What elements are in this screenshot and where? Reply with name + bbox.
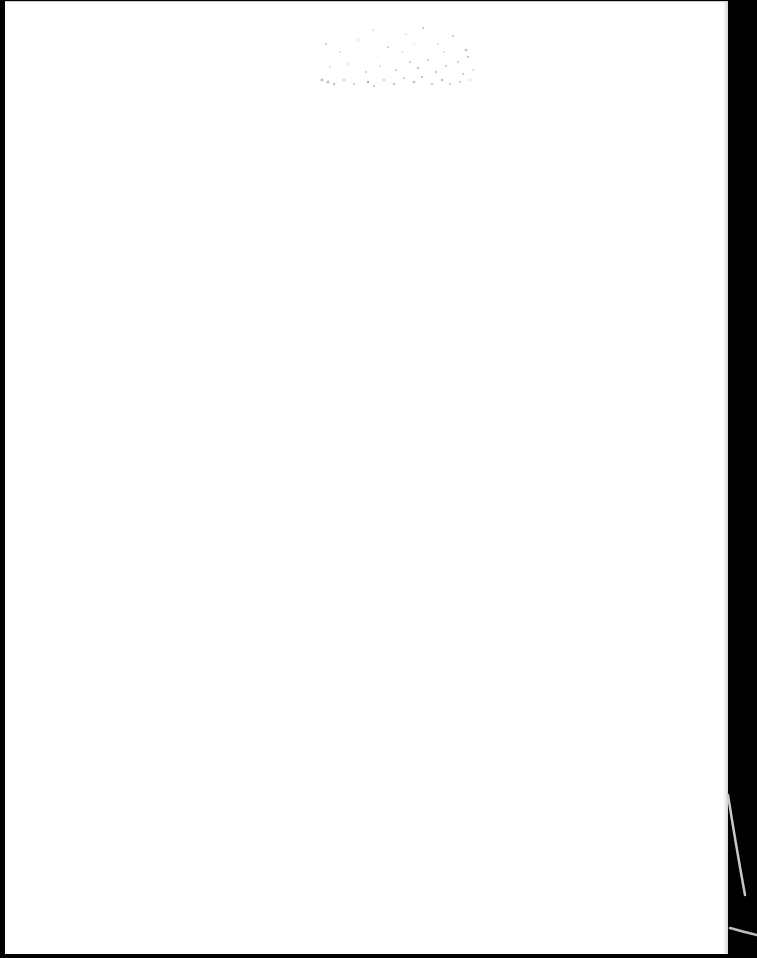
speckle-noise-artifact [318,22,478,90]
page-edge-shadow [723,2,728,954]
document-page [5,1,728,954]
scan-background [0,0,757,958]
